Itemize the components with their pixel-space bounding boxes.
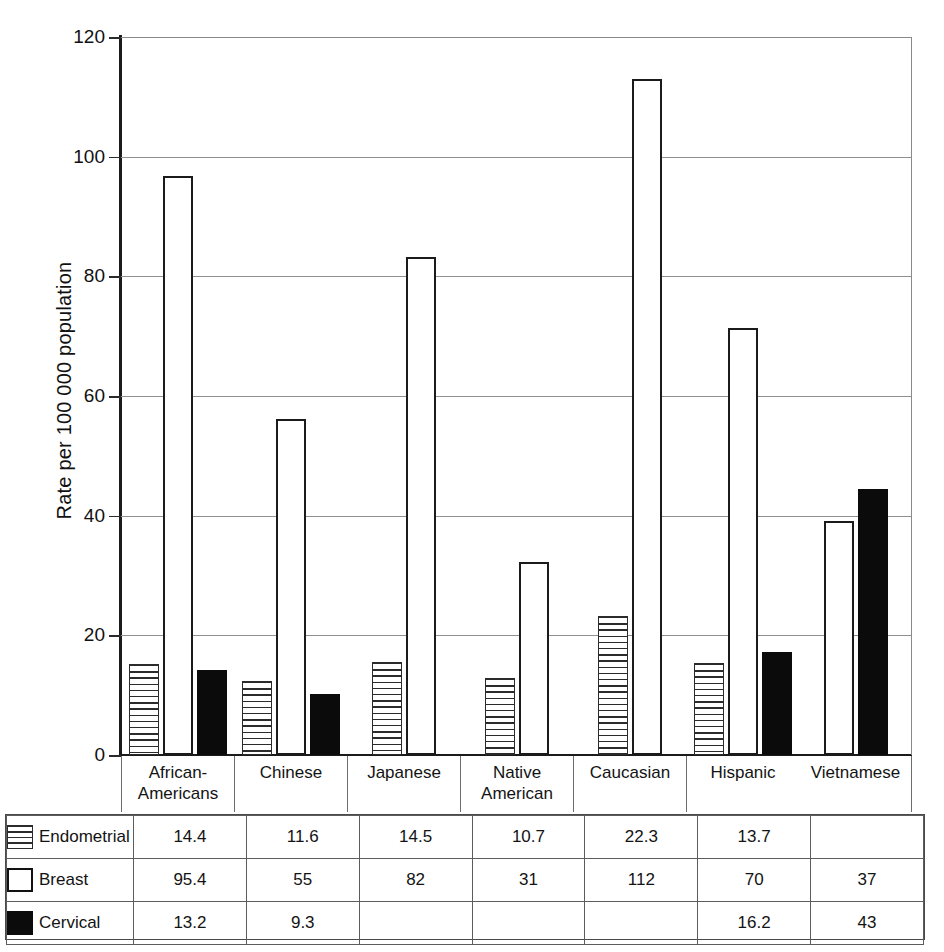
y-axis-tick-label: 20 [5,624,105,646]
table-cell: 55 [246,859,359,902]
plot-border-right [911,37,912,755]
category-label-chinese: Chinese [234,756,347,812]
table-row: Endometrial14.411.614.510.722.313.7 [7,816,924,859]
table-cell [811,816,924,859]
bar-breast-hispanic [728,328,758,755]
y-axis-tick-label: 100 [5,146,105,168]
table-cell: 82 [359,859,472,902]
endometrial-swatch-icon [7,825,33,849]
y-axis-tick-label: 40 [5,505,105,527]
bar-endometrial-hispanic [694,663,724,755]
category-label-japanese: Japanese [347,756,460,812]
table-cell: 43 [811,902,924,945]
chart-root: Rate per 100 000 population 020406080100… [0,0,944,952]
y-axis-tick-label: 0 [5,744,105,766]
table-cell: 14.4 [134,816,247,859]
table-cell: 22.3 [585,816,698,859]
legend-cell-endometrial: Endometrial [7,816,134,859]
bar-endometrial-african-americans [129,664,159,755]
category-label-vietnamese: Vietnamese [799,756,912,812]
legend-cell-breast: Breast [7,859,134,902]
table-cell: 10.7 [472,816,585,859]
table-cell: 13.7 [698,816,811,859]
category-label-caucasian: Caucasian [573,756,686,812]
table-cell: 16.2 [698,902,811,945]
table-cell: 11.6 [246,816,359,859]
table-row: Cervical13.29.316.243 [7,902,924,945]
legend-label: Breast [39,870,88,890]
bar-cervical-chinese [310,694,340,755]
y-axis-tick [109,37,121,39]
y-axis-tick [109,396,121,398]
y-axis-tick-label: 60 [5,385,105,407]
table-cell: 14.5 [359,816,472,859]
bar-breast-chinese [276,419,306,755]
table-cell: 37 [811,859,924,902]
table-cell [472,902,585,945]
y-axis-tick [109,755,121,757]
cervical-swatch-icon [7,911,33,935]
legend-label: Endometrial [39,827,130,847]
bar-breast-caucasian [632,79,662,755]
bar-breast-vietnamese [824,521,854,755]
category-label-native-american: NativeAmerican [460,756,573,812]
table-cell: 112 [585,859,698,902]
bar-cervical-african-americans [197,670,227,755]
table-cell: 70 [698,859,811,902]
y-axis-tick [109,516,121,518]
bar-breast-japanese [406,257,436,755]
bar-endometrial-native-american [485,678,515,755]
category-label-hispanic: Hispanic [686,756,799,812]
legend-cell-cervical: Cervical [7,902,134,945]
bar-cervical-hispanic [762,652,792,755]
bar-breast-native-american [519,562,549,755]
y-axis-tick-label: 120 [5,26,105,48]
table-cell [585,902,698,945]
legend-label: Cervical [39,913,100,933]
table-cell: 31 [472,859,585,902]
y-axis-tick [109,635,121,637]
bar-endometrial-japanese [372,662,402,755]
table-cell: 13.2 [134,902,247,945]
category-label-african-americans: African-Americans [121,756,234,812]
plot-area [121,37,912,755]
category-axis-labels: VietnameseHispanicCaucasianNativeAmerica… [121,756,912,812]
bar-endometrial-caucasian [598,616,628,755]
category-axis-right-edge [911,756,912,812]
bar-breast-african-americans [163,176,193,755]
breast-swatch-icon [7,868,33,892]
table-cell: 95.4 [134,859,247,902]
bar-cervical-vietnamese [858,489,888,755]
y-axis-tick [109,276,121,278]
table-row: Breast95.45582311127037 [7,859,924,902]
data-table: Endometrial14.411.614.510.722.313.7Breas… [5,814,925,940]
bar-endometrial-chinese [242,681,272,755]
plot-border-top [121,37,912,38]
table-cell: 9.3 [246,902,359,945]
y-axis-tick [109,157,121,159]
table-cell [359,902,472,945]
y-axis-tick-label: 80 [5,265,105,287]
